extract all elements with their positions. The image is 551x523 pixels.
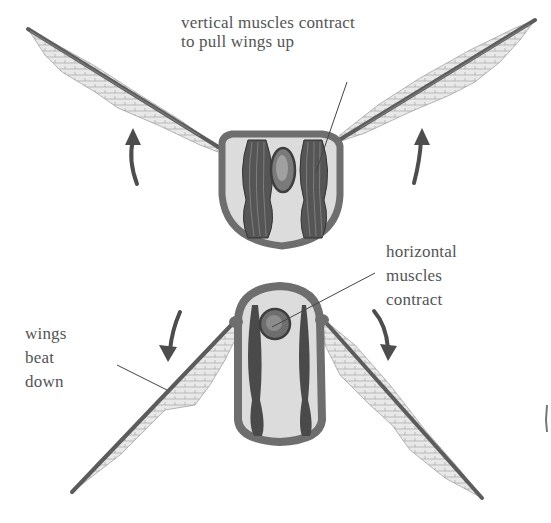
label-line: contract [386,288,457,312]
left-wing-down [72,318,240,492]
horizontal-muscles-label: horizontal muscles contract [386,240,457,312]
thorax-cross-section-down [229,286,329,442]
diagram-artwork [0,0,551,523]
thorax-cross-section-up [222,134,340,246]
down-right-arrow [374,311,397,361]
label-line: muscles [386,264,457,288]
label-line: horizontal [386,240,457,264]
down-left-arrow [159,312,180,362]
label-line: down [25,370,67,394]
wing-leader-line [117,365,167,390]
right-wing-up [336,20,535,142]
insect-flight-diagram: vertical muscles contract to pull wings … [0,0,551,523]
wings-beat-down-label: wings beat down [25,322,67,394]
upstroke-figure [28,20,535,246]
right-wing-down [320,316,482,498]
label-line: beat [25,346,67,370]
edge-mark [546,405,547,432]
vertical-muscles-label: vertical muscles contract to pull wings … [181,13,355,51]
label-line: vertical muscles contract [181,13,355,32]
label-line: wings [25,322,67,346]
label-line: to pull wings up [181,32,355,51]
up-right-arrow [414,128,430,183]
up-left-arrow [125,128,141,184]
